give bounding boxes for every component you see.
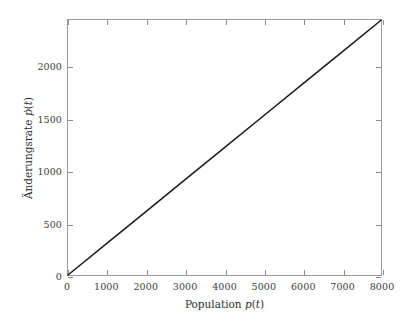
x-tick-label-8: 8000 (370, 281, 395, 292)
x-tick-label-4: 4000 (212, 281, 237, 292)
y-tick-label-1: 500 (44, 218, 62, 229)
y-axis-label-wrapper: Änderungsrate ṗ(t) (20, 19, 36, 276)
plot-area (68, 20, 381, 275)
x-tick-label-2: 2000 (133, 281, 158, 292)
x-tick-label-7: 7000 (330, 281, 355, 292)
y-tick-label-2: 1000 (37, 166, 62, 177)
x-tick-label-1: 1000 (94, 281, 119, 292)
data-series-line (68, 20, 381, 275)
y-tick-label-0: 0 (56, 271, 62, 282)
plot-frame (67, 19, 382, 276)
y-tick-label-3: 1500 (37, 113, 62, 124)
x-axis-label: Population p(t) (67, 298, 382, 310)
x-tick-top-8 (383, 20, 384, 25)
y-tick-right-0 (376, 277, 381, 278)
y-axis-label: Änderungsrate ṗ(t) (22, 96, 34, 198)
y-tick-left-0 (68, 277, 73, 278)
x-tick-label-3: 3000 (173, 281, 198, 292)
x-tick-label-0: 0 (64, 281, 70, 292)
x-tick-label-5: 5000 (252, 281, 277, 292)
data-line-svg (68, 20, 381, 275)
x-tick-label-6: 6000 (291, 281, 316, 292)
x-tick-bottom-8 (383, 270, 384, 275)
figure-canvas: 0500100015002000 01000200030004000500060… (0, 0, 415, 324)
y-tick-label-4: 2000 (37, 61, 62, 72)
